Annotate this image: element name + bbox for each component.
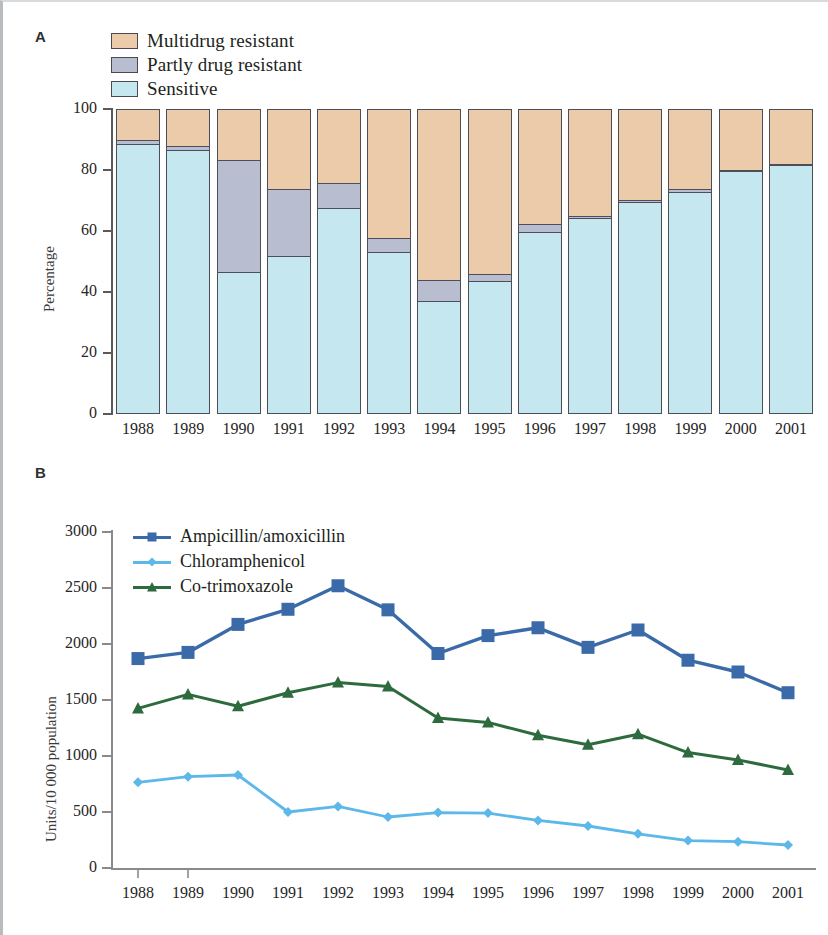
- data-point-marker: [133, 777, 143, 787]
- data-point-marker: [782, 686, 795, 699]
- legend-swatch-multidrug_resistant-icon: [111, 33, 138, 49]
- bar-segment-multidrug-resistant: [318, 110, 360, 183]
- legend-label-triangle: Co-trimoxazole: [180, 576, 293, 597]
- bar-1997: [568, 109, 612, 414]
- bar-segment-sensitive: [469, 282, 511, 413]
- bar-segment-partly-drug-resistant: [519, 224, 561, 233]
- panel-a-plot-area: [113, 109, 816, 414]
- legend-marker-shape: [145, 530, 159, 544]
- panel-b: B Units/10 000 population 05001000150020…: [3, 452, 828, 935]
- legend-marker-shape: [145, 580, 159, 594]
- y-tick-mark: [103, 230, 113, 232]
- legend-swatch-sensitive-icon: [111, 81, 138, 97]
- panel-b-series-svg: [3, 452, 828, 935]
- data-point-marker: [232, 618, 245, 631]
- bar-segment-multidrug-resistant: [669, 110, 711, 189]
- panel-a-legend: Multidrug resistantPartly drug resistant…: [111, 29, 302, 101]
- bar-segment-sensitive: [770, 166, 812, 413]
- y-tick-mark: [103, 291, 113, 293]
- bar-segment-multidrug-resistant: [167, 110, 209, 146]
- y-tick-mark: [103, 169, 113, 171]
- bar-segment-multidrug-resistant: [117, 110, 159, 140]
- bar-1988: [116, 109, 160, 414]
- panel-a-letter: A: [35, 28, 46, 45]
- legend-marker-diamond-icon: [133, 555, 171, 569]
- series-line-square: [138, 586, 788, 693]
- bar-segment-sensitive: [218, 273, 260, 413]
- legend-swatch-partly_drug_resistant-icon: [111, 57, 138, 73]
- bar-segment-partly-drug-resistant: [418, 280, 460, 301]
- bar-segment-multidrug-resistant: [268, 110, 310, 189]
- y-tick-label: 0: [37, 404, 97, 422]
- bar-1994: [417, 109, 461, 414]
- bar-segment-sensitive: [569, 219, 611, 413]
- data-point-marker: [282, 603, 295, 616]
- y-tick-label: 20: [37, 343, 97, 361]
- bar-segment-sensitive: [669, 193, 711, 413]
- data-point-marker: [182, 688, 194, 700]
- y-tick-label: 100: [37, 99, 97, 117]
- data-point-marker: [432, 647, 445, 660]
- data-point-marker: [633, 829, 643, 839]
- bar-segment-partly-drug-resistant: [268, 189, 310, 258]
- legend-label-diamond: Chloramphenicol: [180, 551, 305, 572]
- bar-segment-sensitive: [117, 145, 159, 413]
- y-tick-mark: [103, 108, 113, 110]
- bar-segment-partly-drug-resistant: [368, 238, 410, 253]
- data-point-marker: [683, 836, 693, 846]
- bar-segment-sensitive: [619, 203, 661, 413]
- bar-1996: [518, 109, 562, 414]
- legend-label-multidrug_resistant: Multidrug resistant: [147, 30, 294, 52]
- bar-segment-multidrug-resistant: [770, 110, 812, 164]
- y-tick-label: 80: [37, 160, 97, 178]
- data-point-marker: [433, 808, 443, 818]
- legend-label-sensitive: Sensitive: [147, 78, 218, 100]
- panel-a: A Multidrug resistantPartly drug resista…: [3, 2, 828, 452]
- legend-item-sensitive: Sensitive: [111, 77, 302, 101]
- figure-frame: A Multidrug resistantPartly drug resista…: [0, 0, 828, 935]
- x-axis-label-2001: 2001: [761, 420, 821, 438]
- panel-b-legend: Ampicillin/amoxicillinChloramphenicolCo-…: [133, 524, 345, 599]
- bar-segment-partly-drug-resistant: [469, 274, 511, 282]
- x-axis-label-2001: 2001: [757, 884, 819, 902]
- bar-1991: [267, 109, 311, 414]
- y-tick-label: 60: [37, 221, 97, 239]
- bar-segment-sensitive: [720, 172, 762, 413]
- data-point-marker: [532, 621, 545, 634]
- bar-segment-multidrug-resistant: [569, 110, 611, 216]
- y-tick-mark: [103, 413, 113, 415]
- y-tick-mark: [103, 352, 113, 354]
- data-point-marker: [733, 837, 743, 847]
- y-tick-label: 40: [37, 282, 97, 300]
- data-point-marker: [533, 815, 543, 825]
- data-point-marker: [582, 641, 595, 654]
- bar-segment-sensitive: [318, 209, 360, 413]
- legend-item-partly_drug_resistant: Partly drug resistant: [111, 53, 302, 77]
- bar-segment-multidrug-resistant: [418, 110, 460, 280]
- data-point-marker: [483, 808, 493, 818]
- bar-1989: [166, 109, 210, 414]
- bar-segment-multidrug-resistant: [720, 110, 762, 170]
- data-point-marker: [382, 603, 395, 616]
- bar-1998: [618, 109, 662, 414]
- data-point-marker: [482, 629, 495, 642]
- bar-segment-sensitive: [167, 151, 209, 413]
- data-point-marker: [732, 666, 745, 679]
- bar-1992: [317, 109, 361, 414]
- bar-segment-sensitive: [368, 253, 410, 413]
- legend-item-square: Ampicillin/amoxicillin: [133, 524, 345, 549]
- data-point-marker: [383, 812, 393, 822]
- bar-segment-multidrug-resistant: [519, 110, 561, 224]
- legend-item-diamond: Chloramphenicol: [133, 549, 345, 574]
- bar-segment-sensitive: [519, 233, 561, 413]
- legend-marker-triangle-icon: [133, 580, 171, 594]
- data-point-marker: [132, 652, 145, 665]
- series-line-diamond: [138, 775, 788, 845]
- panel-a-y-axis-title: Percentage: [41, 246, 58, 312]
- bar-segment-partly-drug-resistant: [218, 160, 260, 273]
- bar-segment-multidrug-resistant: [619, 110, 661, 200]
- legend-label-partly_drug_resistant: Partly drug resistant: [147, 54, 302, 76]
- bar-1999: [668, 109, 712, 414]
- data-point-marker: [183, 772, 193, 782]
- legend-label-square: Ampicillin/amoxicillin: [180, 526, 345, 547]
